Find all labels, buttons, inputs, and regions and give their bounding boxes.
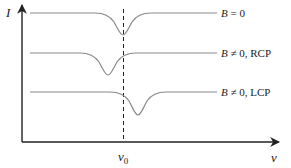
x-axis-label: ν [271,150,277,165]
y-axis-label: I [5,5,11,20]
label-lcp: B ≠ 0, LCP [221,86,270,98]
label-rcp: B ≠ 0, RCP [221,47,271,59]
curve-rcp [30,53,217,75]
center-frequency-label: ν0 [118,149,129,166]
label-b-zero: B = 0 [221,7,245,19]
zeeman-absorption-diagram: I ν ν0 B = 0 B ≠ 0, RCP B ≠ 0, LCP [0,0,291,168]
